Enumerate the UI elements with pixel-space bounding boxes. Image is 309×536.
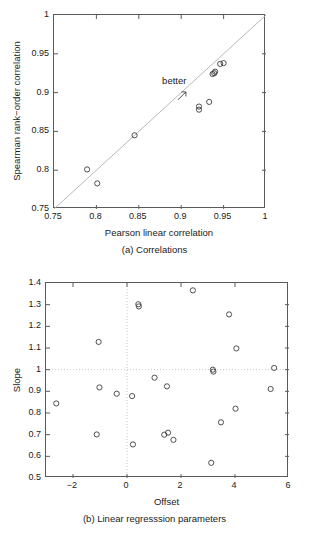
better-arrow-icon xyxy=(178,92,186,100)
x-tick-label: 0 xyxy=(123,481,128,490)
data-point-marker xyxy=(114,391,119,396)
data-point-marker xyxy=(54,401,59,406)
scatter-layer-correlations xyxy=(54,15,266,209)
data-point-marker xyxy=(95,181,100,186)
data-point-marker xyxy=(97,385,102,390)
data-point-marker xyxy=(130,394,135,399)
panel-correlations: 0.750.80.850.90.9510.750.80.850.90.951 P… xyxy=(0,0,309,268)
y-axis-title-regression: Slope xyxy=(11,282,22,477)
data-point-marker xyxy=(152,375,157,380)
data-point-marker xyxy=(164,384,169,389)
better-annotation-label: better xyxy=(162,75,186,86)
y-tick-label: 0.9 xyxy=(0,87,49,96)
data-point-marker xyxy=(209,460,214,465)
data-point-marker xyxy=(233,406,238,411)
data-point-marker xyxy=(207,99,212,104)
figure-container: 0.750.80.850.90.9510.750.80.850.90.951 P… xyxy=(0,0,309,536)
x-axis-title-correlations: Pearson linear correlation xyxy=(53,227,265,238)
x-tick-label: 0.85 xyxy=(129,212,147,221)
x-tick-label: 1 xyxy=(262,212,267,221)
plot-area-regression xyxy=(45,282,288,477)
y-tick-label: 1 xyxy=(0,10,49,19)
scatter-layer-regression xyxy=(46,283,289,478)
y-tick-label: 0.85 xyxy=(0,126,49,135)
x-tick-label: −2 xyxy=(67,481,77,490)
reference-line xyxy=(54,15,266,209)
x-tick-label: 0.75 xyxy=(44,212,62,221)
y-tick-label: 0.8 xyxy=(0,165,49,174)
data-point-marker xyxy=(268,386,273,391)
data-point-marker xyxy=(221,61,226,66)
x-tick-label: 4 xyxy=(231,481,236,490)
data-point-marker xyxy=(96,339,101,344)
x-axis-title-regression: Offset xyxy=(45,496,288,507)
data-point-marker xyxy=(171,437,176,442)
data-point-marker xyxy=(84,167,89,172)
panel-regression: −202460.50.60.70.80.911.11.21.31.4 Offse… xyxy=(0,268,309,536)
x-tick-label: 0.9 xyxy=(174,212,187,221)
data-point-marker xyxy=(94,432,99,437)
y-tick-label: 0.95 xyxy=(0,48,49,57)
x-tick-label: 6 xyxy=(285,481,290,490)
y-tick-label: 0.75 xyxy=(0,204,49,213)
plot-area-correlations xyxy=(53,14,265,208)
data-point-marker xyxy=(196,107,201,112)
data-point-marker xyxy=(190,288,195,293)
data-point-marker xyxy=(226,312,231,317)
data-point-marker xyxy=(218,420,223,425)
caption-panel-a: (a) Correlations xyxy=(0,244,309,255)
x-tick-label: 2 xyxy=(177,481,182,490)
data-point-marker xyxy=(234,346,239,351)
data-point-marker xyxy=(130,442,135,447)
x-tick-label: 0.95 xyxy=(214,212,232,221)
x-tick-label: 0.8 xyxy=(89,212,102,221)
y-axis-title-correlations: Spearman rank−order correlation xyxy=(11,14,22,208)
caption-panel-b: (b) Linear regresssion parameters xyxy=(0,513,309,524)
